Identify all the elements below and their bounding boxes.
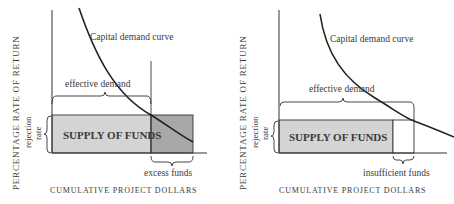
- capital-rationing-diagram: PERCENTAGE RATE OF RETURN rejection rate…: [0, 0, 454, 204]
- right-rejection-brace: [271, 121, 278, 153]
- right-insufficient-funds-brace: [393, 156, 414, 164]
- right-insufficient-box: [393, 120, 414, 153]
- left-rejection-label-2: rate: [33, 127, 43, 141]
- left-effective-demand-brace: [52, 92, 151, 104]
- right-supply-label: SUPPLY OF FUNDS: [289, 131, 387, 143]
- right-capital-demand-curve: [320, 14, 454, 137]
- left-x-axis-label: CUMULATIVE PROJECT DOLLARS: [50, 186, 197, 195]
- left-y-axis-label: PERCENTAGE RATE OF RETURN: [11, 35, 21, 190]
- left-panel: PERCENTAGE RATE OF RETURN rejection rate…: [11, 8, 207, 195]
- right-rejection-label-1: rejection: [250, 116, 260, 148]
- left-curve-label: Capital demand curve: [90, 32, 173, 42]
- left-supply-label: SUPPLY OF FUNDS: [63, 129, 161, 141]
- left-rejection-brace: [44, 116, 51, 153]
- right-insufficient-funds-label: insufficient funds: [363, 168, 430, 178]
- right-rejection-label-2: rate: [260, 127, 270, 141]
- right-effective-demand-label: effective demand: [309, 84, 375, 94]
- left-excess-funds-brace: [151, 156, 193, 166]
- left-effective-demand-label: effective demand: [65, 79, 131, 89]
- right-curve-label: Capital demand curve: [330, 34, 413, 44]
- left-excess-funds-label: excess funds: [144, 168, 193, 178]
- right-y-axis-label: PERCENTAGE RATE OF RETURN: [238, 35, 248, 190]
- left-rejection-label-1: rejection: [23, 116, 33, 148]
- right-panel: PERCENTAGE RATE OF RETURN rejection rate…: [238, 10, 454, 195]
- right-x-axis-label: CUMULATIVE PROJECT DOLLARS: [279, 186, 426, 195]
